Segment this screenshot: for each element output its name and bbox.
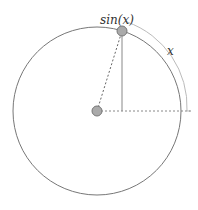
- arc-label: x: [167, 44, 174, 58]
- sin-label: sin(x): [100, 13, 134, 27]
- sine-point: [117, 26, 127, 36]
- center-point: [92, 106, 102, 116]
- arc-length-indicator: [127, 22, 187, 111]
- unit-circle-diagram: sin(x) x: [0, 0, 198, 210]
- radius-line: [97, 31, 122, 111]
